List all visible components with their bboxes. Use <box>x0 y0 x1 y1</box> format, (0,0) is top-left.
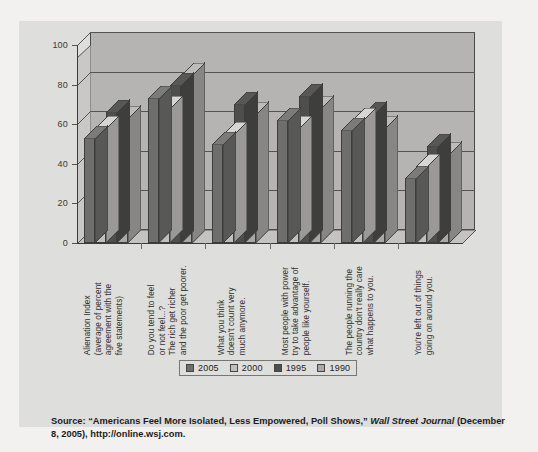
category-label-line: what happens to you. <box>367 275 375 355</box>
bar-side <box>159 85 172 243</box>
legend-item-1990[interactable]: 1990 <box>317 363 350 373</box>
bar-top <box>234 92 258 105</box>
category-label-line: people like yourself. <box>303 281 311 355</box>
category-label-line: and the poor get poorer. <box>180 265 188 355</box>
y-axis-tick-label: 60 <box>58 119 68 129</box>
category-label-line: agreement with the <box>105 284 113 355</box>
category-label-group-6: You're left out of thingsgoing on around… <box>398 247 462 355</box>
bar-side <box>95 125 108 243</box>
legend-item-2000[interactable]: 2000 <box>230 363 263 373</box>
source-publication: Wall Street Journal <box>370 416 454 426</box>
category-label-line: going on around you. <box>426 276 434 355</box>
bar-top <box>148 86 172 99</box>
legend-label: 1995 <box>286 363 307 373</box>
bar-2005-group-4 <box>277 120 288 243</box>
category-label-line: doesn't count very <box>228 287 236 355</box>
category-label-line: country don't really care <box>356 266 364 355</box>
y-axis-tick-label: 40 <box>58 159 68 169</box>
gridline <box>90 72 475 73</box>
legend-swatch-icon <box>230 364 238 372</box>
gridline <box>90 32 475 33</box>
bar-front <box>405 178 416 243</box>
y-axis-tick-label: 80 <box>58 80 68 90</box>
legend-label: 1990 <box>329 363 350 373</box>
bar-front <box>212 144 223 243</box>
category-label-line: five statements) <box>115 296 123 355</box>
legend-label: 2000 <box>242 363 263 373</box>
category-label-line: What you think <box>217 299 225 355</box>
category-label-line: The rich get richer <box>169 287 177 355</box>
category-label-group-5: The people running thecountry don't real… <box>334 247 398 355</box>
bar-top <box>170 73 194 86</box>
bar-side <box>352 117 365 243</box>
bar-front <box>84 138 95 243</box>
bar-top <box>277 108 301 121</box>
category-label-line: You're left out of things <box>415 270 423 355</box>
chart-figure: 020406080100 Alienation Index(average of… <box>19 21 502 381</box>
category-label-line: or not feel...? <box>159 306 167 355</box>
category-label-line: Most people with power <box>282 267 290 355</box>
gridline-riser <box>77 32 91 46</box>
bar-top <box>106 100 130 113</box>
chart-legend: 2005200019951990 <box>179 360 357 376</box>
bar-top <box>299 84 323 97</box>
category-label-group-4: Most people with powertry to take advant… <box>270 247 334 355</box>
chart-card: 020406080100 Alienation Index(average of… <box>19 21 502 427</box>
bar-front <box>148 98 159 243</box>
bar-2005-group-6 <box>405 178 416 243</box>
legend-swatch-icon <box>274 364 282 372</box>
bar-top <box>427 134 451 147</box>
y-axis <box>77 45 78 244</box>
bar-top <box>84 126 108 139</box>
bar-top <box>405 166 429 179</box>
category-labels: Alienation Index(average of percentagree… <box>77 247 476 355</box>
legend-swatch-icon <box>186 364 194 372</box>
category-label-group-2: Do you tend to feelor not feel...?The ri… <box>141 247 205 355</box>
bar-front <box>341 130 352 243</box>
bar-top <box>341 118 365 131</box>
legend-swatch-icon <box>317 364 325 372</box>
category-label-group-3: What you thinkdoesn't count verymuch any… <box>205 247 269 355</box>
bar-2005-group-3 <box>212 144 223 243</box>
y-axis-tick-label: 100 <box>52 40 68 50</box>
legend-item-2005[interactable]: 2005 <box>186 363 219 373</box>
bar-side <box>288 107 301 243</box>
legend-label: 2005 <box>198 363 219 373</box>
bar-top <box>212 132 236 145</box>
legend-item-1995[interactable]: 1995 <box>274 363 307 373</box>
category-label-line: try to take advantage of <box>292 267 300 355</box>
category-label-line: much anymore. <box>238 297 246 355</box>
source-note: Source: “Americans Feel More Isolated, L… <box>51 415 511 441</box>
bar-front <box>277 120 288 243</box>
bar-2005-group-1 <box>84 138 95 243</box>
bar-2005-group-5 <box>341 130 352 243</box>
plot-area: 020406080100 <box>77 45 462 243</box>
category-label-line: The people running the <box>346 269 354 355</box>
y-axis-tick-label: 20 <box>58 198 68 208</box>
category-label-group-1: Alienation Index(average of percentagree… <box>77 247 141 355</box>
category-label-line: Do you tend to feel <box>148 284 156 355</box>
category-label-line: Alienation Index <box>84 295 92 355</box>
y-axis-tick-label: 0 <box>63 238 68 248</box>
bar-side <box>223 131 236 243</box>
source-prefix: Source: “Americans Feel More Isolated, L… <box>51 416 370 426</box>
bar-2005-group-2 <box>148 98 159 243</box>
category-label-line: (average of percent <box>94 282 102 355</box>
